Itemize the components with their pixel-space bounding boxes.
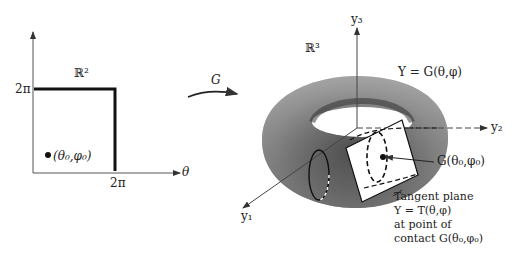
domain-point [45,152,51,158]
y-tick-2pi: 2π [15,83,31,95]
surface-label: Y = G(θ,φ) [398,66,462,78]
contact-point-label: G(θ₀,φ₀) [437,155,485,167]
point-label: (θ₀,φ₀) [53,150,91,162]
r2-label: ℝ² [74,67,89,79]
tangent-caption-line4: contact G(θ₀,φ₀) [394,233,483,244]
x-tick-2pi: 2π [110,177,126,189]
mapping-label: G [211,74,221,86]
torus-surface [262,76,448,208]
contact-point [380,154,386,160]
theta-axis-label: θ [182,166,189,178]
mapping-arrow [188,92,237,97]
y2-axis-label: y₂ [491,121,503,133]
tangent-caption-line1: Tangent plane [394,191,473,202]
r3-label: ℝ³ [305,42,320,54]
tangent-caption-line2: Y = T(θ,φ) [394,205,451,216]
tangent-caption-line3: at point of [394,219,451,230]
y1-axis-label: y₁ [241,210,253,222]
y3-axis-label: y₃ [351,13,363,25]
